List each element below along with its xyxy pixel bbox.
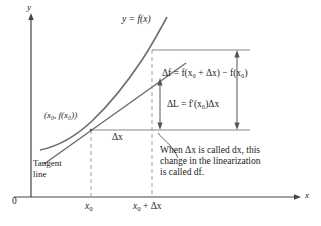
delta-L-label: ΔL = f′(x₀)Δx	[167, 99, 219, 110]
origin-label: 0	[12, 196, 17, 207]
x-axis	[14, 194, 301, 199]
x-tick-x0dx-rest: + Δx	[141, 201, 162, 211]
x-tick-x0: x0	[85, 201, 93, 213]
linearization-annotation: When Δx is called dx, this change in the…	[160, 145, 261, 179]
annotation-line-3: is called df.	[160, 167, 204, 177]
x-tick-x0-plus-dx: x0 + Δx	[133, 201, 162, 213]
delta-f-label: Δf = f(x₀ + Δx) − f(x₀)	[162, 68, 248, 79]
tangency-point	[90, 129, 93, 132]
tangency-point-label: (x₀, f(x₀))	[44, 110, 77, 121]
y-axis-label: y	[27, 2, 31, 13]
function-label-arg: (x)	[140, 14, 151, 24]
annotation-line-2: change in the linearization	[160, 156, 261, 166]
x-tick-x0-sub: 0	[89, 205, 92, 212]
tangent-line-label-line1: Tangent	[33, 158, 62, 168]
function-label: y = f(x)	[122, 14, 151, 25]
delta-x-label: Δx	[112, 132, 123, 143]
linearization-diagram: y x 0 x0 x0 + Δx y = f(x) (x₀, f(x₀)) Δx…	[0, 0, 321, 226]
tangent-line-label-line2: line	[33, 169, 47, 179]
delta-L-arrow	[157, 78, 162, 130]
x-axis-label: x	[305, 190, 309, 201]
delta-f-arrow	[234, 50, 239, 130]
function-label-main: y = f	[122, 14, 140, 24]
annotation-line-1: When Δx is called dx, this	[160, 145, 260, 155]
tangent-line-label: Tangent line	[33, 158, 62, 179]
